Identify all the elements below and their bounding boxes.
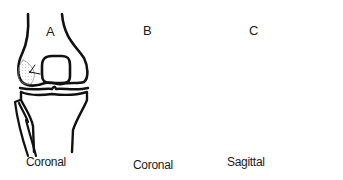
- panel-c-caption: Sagittal: [227, 155, 265, 169]
- panel-a-caption: Coronal: [26, 155, 66, 169]
- panel-a-letter: A: [46, 24, 55, 39]
- panel-b-letter: B: [143, 23, 152, 38]
- panel-b-caption: Coronal: [133, 158, 173, 172]
- intercondylar-block-a: [42, 56, 70, 83]
- panel-c-letter: C: [249, 23, 258, 38]
- joint-line-a: [20, 87, 88, 90]
